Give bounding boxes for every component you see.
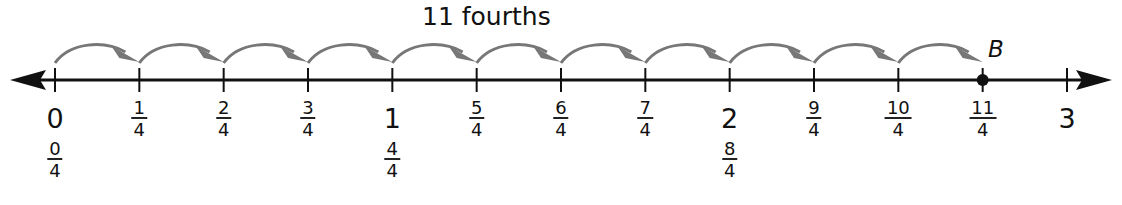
whole-number-label: 0 [46,103,63,134]
fraction-numerator: 8 [722,139,737,160]
fraction-label: 44 [385,139,400,182]
fraction-denominator: 4 [387,160,398,182]
jump-arrowhead-icon [111,46,139,62]
fraction-numerator: 11 [969,98,996,119]
fraction-denominator: 4 [218,119,229,141]
fraction-label: 24 [216,98,231,141]
fraction-label: 54 [469,98,484,141]
fraction-label: 104 [885,98,912,141]
whole-number-label: 1 [384,103,401,134]
fraction-numerator: 10 [885,98,912,119]
jump-arc [224,45,294,63]
fraction-numerator: 6 [553,98,568,119]
jump-arc [898,45,968,63]
fraction-label: 14 [132,98,147,141]
whole-number-label: 3 [1058,103,1075,134]
fraction-numerator: 4 [385,139,400,160]
fraction-denominator: 4 [893,119,904,141]
fraction-denominator: 4 [302,119,313,141]
fraction-label: 04 [47,139,62,182]
fraction-numerator: 1 [132,98,147,119]
jump-arc [814,45,884,63]
fraction-label: 84 [722,139,737,182]
fraction-denominator: 4 [555,119,566,141]
fraction-label: 34 [300,98,315,141]
fraction-label: 64 [553,98,568,141]
jump-arc [55,45,125,63]
fraction-numerator: 2 [216,98,231,119]
jump-arc [139,45,209,63]
fraction-numerator: 3 [300,98,315,119]
jump-arrowhead-icon [196,46,224,62]
fraction-numerator: 0 [47,139,62,160]
number-line-diagram: 11 fourths B 004142434144546474284941041… [0,0,1122,205]
point-b-dot [977,74,989,86]
jump-arc [730,45,800,63]
fraction-label: 94 [806,98,821,141]
fraction-denominator: 4 [977,119,988,141]
fraction-numerator: 9 [806,98,821,119]
jump-arrows [55,45,983,63]
jump-arc [645,45,715,63]
fraction-numerator: 7 [638,98,653,119]
jump-arc [477,45,547,63]
fraction-denominator: 4 [640,119,651,141]
fraction-numerator: 5 [469,98,484,119]
jump-arc [308,45,378,63]
fraction-denominator: 4 [471,119,482,141]
jump-arc [392,45,462,63]
fraction-label: 74 [638,98,653,141]
whole-number-label: 2 [721,103,738,134]
fraction-denominator: 4 [134,119,145,141]
fraction-denominator: 4 [808,119,819,141]
fraction-denominator: 4 [49,160,60,182]
fraction-label: 114 [969,98,996,141]
jump-arc [561,45,631,63]
fraction-denominator: 4 [724,160,735,182]
